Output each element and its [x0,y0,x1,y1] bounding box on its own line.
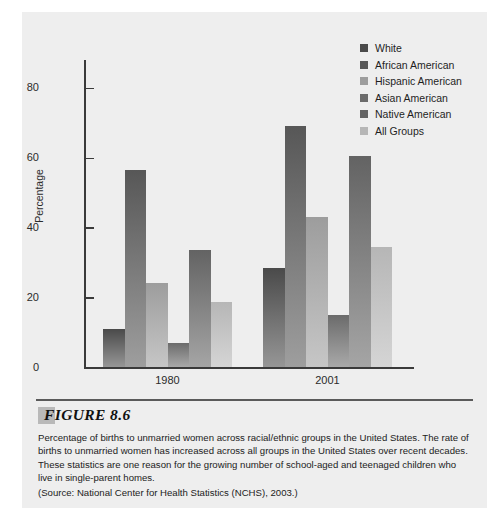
y-tick-label: 80 [0,82,39,93]
legend-item: Asian American [360,90,490,107]
bar [328,315,350,367]
figure-number: FIGURE 8.6 [44,406,131,424]
x-tick-label: 1980 [138,374,198,386]
bar [146,283,168,367]
caption-paragraph: Percentage of births to unmarried women … [38,432,469,483]
legend-label: Hispanic American [375,75,462,87]
x-axis-line [84,367,414,369]
legend-item: Native American [360,106,490,123]
y-tick-label: 20 [0,292,39,303]
figure-panel: 020406080 Percentage 19802001 WhiteAfric… [22,12,487,508]
bar [211,302,233,367]
legend-item: All Groups [360,123,490,140]
bar [103,329,125,367]
bar [125,170,147,367]
chart-legend: WhiteAfrican AmericanHispanic AmericanAs… [360,40,490,139]
legend-swatch-icon [360,110,368,118]
legend-item: Hispanic American [360,73,490,90]
bar-chart: 020406080 Percentage 19802001 WhiteAfric… [22,12,487,397]
legend-swatch-icon [360,127,368,135]
legend-swatch-icon [360,77,368,85]
legend-label: All Groups [375,125,424,137]
legend-label: African American [375,59,454,71]
legend-label: White [375,42,402,54]
legend-item: White [360,40,490,57]
x-tick-label: 2001 [298,374,358,386]
bar [285,126,307,367]
bar [306,217,328,367]
y-tick-mark [86,367,94,369]
figure-caption-block: FIGURE 8.6 Percentage of births to unmar… [22,397,487,508]
legend-label: Asian American [375,92,448,104]
bar [349,156,371,367]
bar [168,343,190,367]
caption-divider [36,399,473,401]
figure-source-text: (Source: National Center for Health Stat… [38,486,470,499]
bar [263,268,285,367]
figure-caption-text: Percentage of births to unmarried women … [38,431,470,499]
legend-item: African American [360,57,490,74]
y-axis-title: Percentage [33,146,45,246]
bar [371,247,393,367]
y-tick-label: 0 [0,362,39,373]
legend-label: Native American [375,108,451,120]
legend-swatch-icon [360,44,368,52]
bar [189,250,211,367]
legend-swatch-icon [360,94,368,102]
legend-swatch-icon [360,61,368,69]
